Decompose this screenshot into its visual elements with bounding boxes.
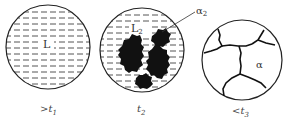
- caption-t1: >t1: [40, 103, 57, 117]
- grain-boundaries: [204, 29, 275, 96]
- alpha2-label: α2: [196, 5, 207, 18]
- liquid-label: L: [43, 38, 51, 51]
- panel-solid: α: [202, 20, 282, 100]
- alpha-label: α: [256, 59, 263, 70]
- solid-crystals: [118, 28, 171, 89]
- caption-t2: t2: [137, 103, 146, 117]
- panel-mixed: L2 α2: [98, 5, 207, 92]
- caption-t3: <t3: [232, 105, 249, 119]
- panel-liquid: L: [5, 5, 92, 89]
